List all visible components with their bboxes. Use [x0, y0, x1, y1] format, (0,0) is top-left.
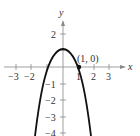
- x-tick-label: −2: [24, 71, 35, 82]
- x-tick-label: 2: [91, 71, 96, 82]
- y-axis-label: y: [58, 7, 64, 18]
- point-label: (1, 0): [77, 53, 99, 65]
- x-tick-label: −3: [8, 71, 19, 82]
- x-tick-label: 3: [106, 71, 111, 82]
- point-marker-icon: [77, 65, 81, 69]
- y-tick-label: −2: [45, 95, 56, 106]
- y-tick-label: −3: [45, 112, 56, 123]
- y-tick-label: 2: [51, 29, 56, 40]
- y-axis-arrow-icon: [61, 20, 65, 26]
- y-axis: y 2 −1 −2 −3 −4: [45, 7, 66, 136]
- y-tick-label: −1: [45, 79, 56, 90]
- y-tick-label: −4: [45, 128, 56, 136]
- x-axis: x −3 −2 1 2 3: [4, 61, 133, 82]
- x-axis-arrow-icon: [120, 65, 126, 69]
- x-axis-label: x: [127, 61, 133, 72]
- parabola-chart: x −3 −2 1 2 3 y 2 −1 −2 −3 −4 (1, 0): [0, 0, 140, 136]
